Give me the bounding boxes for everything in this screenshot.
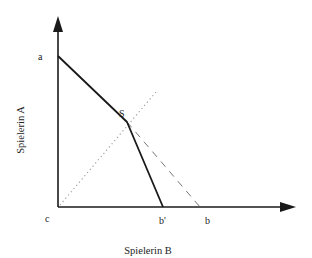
point-label-s: S [119, 108, 125, 119]
bargaining-frontier [58, 56, 163, 207]
bargaining-diagram: a S c b' b Spielerin B Spielerin A [0, 0, 312, 258]
point-label-b: b [205, 215, 210, 226]
x-axis-arrow-icon [280, 202, 296, 212]
original-frontier-dashed [127, 122, 200, 207]
point-label-a: a [38, 51, 43, 62]
y-axis-label: Spielerin A [15, 106, 26, 154]
point-label-c: c [45, 213, 50, 224]
diagonal-line [60, 92, 156, 205]
y-axis-arrow-icon [53, 16, 63, 32]
point-label-b-prime: b' [159, 215, 166, 226]
x-axis-label: Spielerin B [124, 245, 172, 256]
